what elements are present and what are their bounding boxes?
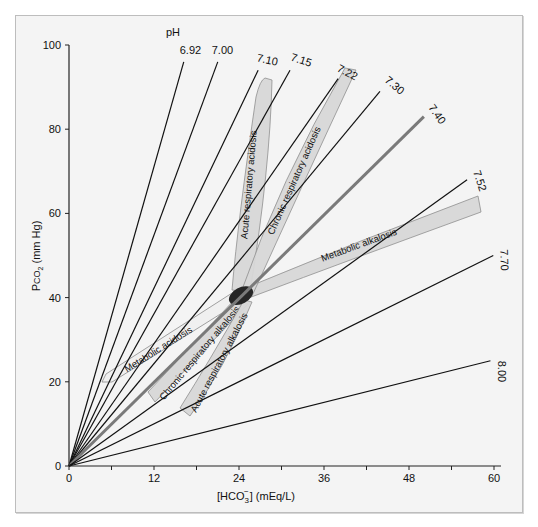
ph-label-7-70: 7.70	[498, 249, 511, 271]
ph-label-7-00: 7.00	[212, 44, 233, 56]
y-tick-label: 60	[49, 207, 61, 219]
x-tick-label: 36	[318, 472, 330, 484]
x-tick-label: 0	[66, 472, 72, 484]
x-tick-label: 12	[148, 472, 160, 484]
ph-line-6-92	[69, 62, 184, 466]
ph-label-7-40: 7.40	[426, 102, 448, 126]
x-tick-label: 48	[403, 472, 415, 484]
ph-line-8-00	[69, 361, 490, 466]
y-tick-label: 100	[43, 39, 61, 51]
y-tick-label: 40	[49, 292, 61, 304]
ph-label-7-52: 7.52	[471, 169, 489, 193]
disorder-bands: Metabolic acidosisMetabolic alkalosisAcu…	[102, 68, 481, 416]
ph-label-7-10: 7.10	[256, 51, 279, 67]
x-axis-title: [HCO3−] (mEq/L)	[217, 487, 295, 505]
ph-prefix-label: pH	[166, 26, 180, 38]
y-tick-label: 20	[49, 376, 61, 388]
acid-base-nomogram: Metabolic acidosisMetabolic alkalosisAcu…	[0, 0, 538, 527]
ph-isopleths: 6.927.007.107.157.227.307.407.527.708.00	[69, 44, 511, 466]
ph-label-7-30: 7.30	[383, 74, 407, 97]
x-tick-label: 60	[488, 472, 500, 484]
y-tick-label: 80	[49, 123, 61, 135]
x-tick-label: 24	[233, 472, 245, 484]
y-tick-label: 0	[55, 460, 61, 472]
ph-line-7-30	[69, 91, 380, 466]
ph-line-7-10	[69, 70, 258, 466]
y-axis-title: PCO2 (mm Hg)	[30, 221, 44, 292]
ph-label-6-92: 6.92	[180, 44, 201, 56]
ph-label-7-15: 7.15	[289, 51, 313, 69]
ph-label-8-00: 8.00	[496, 361, 508, 382]
